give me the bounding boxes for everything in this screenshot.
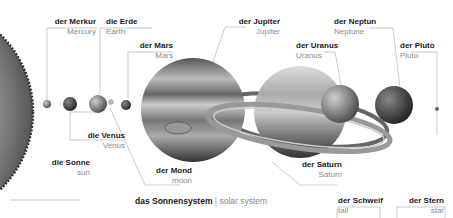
label-mars: der Mars Mars: [128, 41, 173, 61]
label-sun: die Sonne sun: [36, 158, 90, 178]
mars-graphic: [121, 100, 131, 110]
pluto-graphic: [435, 107, 439, 111]
label-uranus: der Uranus Uranus: [296, 41, 338, 61]
uranus-graphic: [321, 85, 359, 123]
neptune-graphic: [375, 86, 413, 124]
jupiter-graphic: [141, 58, 245, 162]
venus-graphic: [63, 97, 77, 111]
label-earth: die Erde Earth: [106, 17, 138, 37]
label-saturn: der Saturn Saturn: [300, 160, 342, 180]
label-pluto: der Pluto Pluto: [400, 41, 435, 61]
moon-graphic: [109, 100, 114, 105]
label-venus: die Venus Venus: [72, 131, 125, 151]
label-star: der Stern star: [398, 196, 444, 216]
diagram-title: das Sonnensystem | solar system: [135, 196, 267, 206]
label-mercury: der Merkur Mercury: [48, 17, 96, 37]
earth-graphic: [89, 95, 107, 113]
label-neptune: der Neptun Neptune: [334, 17, 376, 37]
mercury-graphic: [43, 100, 51, 108]
label-moon: der Mond moon: [140, 166, 192, 186]
label-tail: der Schweif tail: [338, 196, 383, 216]
sun-graphic: [0, 4, 33, 218]
label-jupiter: der Jupiter Jupiter: [230, 17, 280, 37]
